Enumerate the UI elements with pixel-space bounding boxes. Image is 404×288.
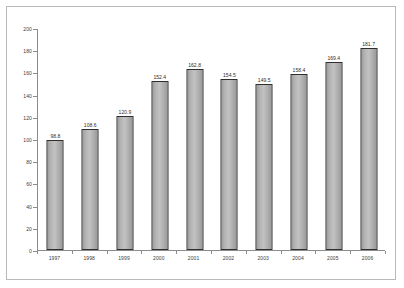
bar-slot: 149.5: [247, 29, 282, 250]
bar-value-label: 108.6: [84, 123, 97, 128]
y-axis-tick-label: 20: [26, 226, 32, 231]
bar-slot: 98.8: [38, 29, 73, 250]
bar[interactable]: 120.9: [116, 116, 133, 250]
bar[interactable]: 149.5: [256, 84, 273, 250]
bar-slot: 162.8: [177, 29, 212, 250]
x-axis-tick-mark: [107, 251, 108, 254]
x-axis-tick-label: 1999: [118, 256, 130, 261]
bar-value-label: 154.5: [223, 73, 236, 78]
x-axis-tick-label: 1998: [83, 256, 95, 261]
x-axis-tick-mark: [176, 251, 177, 254]
x-axis-tick-label: 2000: [153, 256, 165, 261]
y-axis-tick-label: 200: [23, 27, 32, 32]
x-axis-tick-label: 1997: [49, 256, 61, 261]
x-axis-tick-label: 2001: [188, 256, 200, 261]
y-axis-tick-label: 160: [23, 71, 32, 76]
x-axis-tick-label: 2004: [292, 256, 304, 261]
x-axis-tick-mark: [211, 251, 212, 254]
x-axis-tick-label: 2002: [223, 256, 235, 261]
bar[interactable]: 181.7: [360, 48, 377, 250]
plot-area: 020406080100120140160180200 98.8108.6120…: [37, 29, 385, 251]
x-axis-tick-label: 2003: [257, 256, 269, 261]
bar-value-label: 152.4: [153, 75, 166, 80]
bar-slot: 158.4: [282, 29, 317, 250]
x-axis-tick-label: 2006: [362, 256, 374, 261]
bar-slot: 152.4: [142, 29, 177, 250]
y-axis-tick-label: 40: [26, 204, 32, 209]
bar-slot: 108.6: [73, 29, 108, 250]
x-axis-tick-mark: [141, 251, 142, 254]
bar[interactable]: 162.8: [186, 69, 203, 250]
bar[interactable]: 108.6: [82, 129, 99, 250]
x-axis-tick-label: 2005: [327, 256, 339, 261]
x-axis-tick-mark: [315, 251, 316, 254]
bar-slot: 169.4: [316, 29, 351, 250]
bar-series: 98.8108.6120.9152.4162.8154.5149.5158.41…: [38, 29, 385, 250]
bar[interactable]: 98.8: [47, 140, 64, 250]
bar-value-label: 181.7: [362, 42, 375, 47]
bar-slot: 181.7: [351, 29, 386, 250]
bar-slot: 120.9: [108, 29, 143, 250]
y-axis-tick-label: 140: [23, 93, 32, 98]
bar-value-label: 120.9: [119, 110, 132, 115]
x-axis-tick-mark: [281, 251, 282, 254]
bar-slot: 154.5: [212, 29, 247, 250]
y-axis-tick-label: 60: [26, 182, 32, 187]
bar-value-label: 149.5: [258, 78, 271, 83]
y-axis-tick-label: 80: [26, 160, 32, 165]
x-axis-tick-mark: [350, 251, 351, 254]
y-axis-tick-label: 100: [23, 138, 32, 143]
chart-screenshot: 020406080100120140160180200 98.8108.6120…: [0, 0, 404, 288]
bar[interactable]: 158.4: [290, 74, 307, 250]
y-axis-tick-label: 120: [23, 115, 32, 120]
x-axis-tick-mark: [385, 251, 386, 254]
y-axis-tick-label: 180: [23, 49, 32, 54]
bar-value-label: 162.8: [188, 63, 201, 68]
x-axis-tick-mark: [246, 251, 247, 254]
bar[interactable]: 154.5: [221, 79, 238, 250]
bar-value-label: 98.8: [50, 134, 60, 139]
x-axis-tick-mark: [72, 251, 73, 254]
bar-value-label: 158.4: [293, 68, 306, 73]
bar[interactable]: 169.4: [325, 62, 342, 250]
chart-frame: 020406080100120140160180200 98.8108.6120…: [6, 6, 396, 280]
bar-value-label: 169.4: [327, 56, 340, 61]
x-axis-labels: 1997199819992000200120022003200420052006: [37, 256, 385, 268]
y-axis-tick-label: 0: [29, 249, 32, 254]
x-axis-tick-mark: [37, 251, 38, 254]
bar[interactable]: 152.4: [151, 81, 168, 250]
